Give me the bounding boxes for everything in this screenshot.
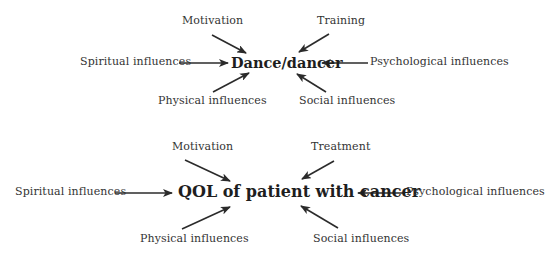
label-spiritual-influences: Spiritual influences — [80, 55, 191, 68]
arrow-physical-to-qol — [182, 207, 230, 229]
arrow-training-to-dance — [299, 34, 329, 52]
label-physical-influences: Physical influences — [140, 232, 249, 245]
label-training: Training — [317, 14, 365, 27]
arrow-physical-to-dance — [213, 73, 249, 92]
arrows-layer — [0, 0, 553, 270]
arrow-social-to-dance — [297, 74, 326, 92]
label-social-influences: Social influences — [299, 94, 395, 107]
center-node-qol-patient-cancer: QOL of patient with cancer — [178, 182, 420, 201]
arrow-motivation-to-dance — [212, 35, 246, 53]
label-motivation: Motivation — [182, 14, 243, 27]
arrow-motivation-to-qol — [185, 160, 230, 181]
arrow-social-to-qol — [301, 206, 338, 228]
label-psychological-influences: Psychological influences — [406, 185, 545, 198]
arrow-treatment-to-qol — [302, 161, 334, 179]
label-motivation: Motivation — [172, 140, 233, 153]
label-physical-influences: Physical influences — [158, 94, 267, 107]
label-treatment: Treatment — [311, 140, 370, 153]
center-node-dance-dancer: Dance/dancer — [231, 54, 343, 71]
label-spiritual-influences: Spiritual influences — [15, 185, 126, 198]
label-social-influences: Social influences — [313, 232, 409, 245]
label-psychological-influences: Psychological influences — [370, 55, 509, 68]
